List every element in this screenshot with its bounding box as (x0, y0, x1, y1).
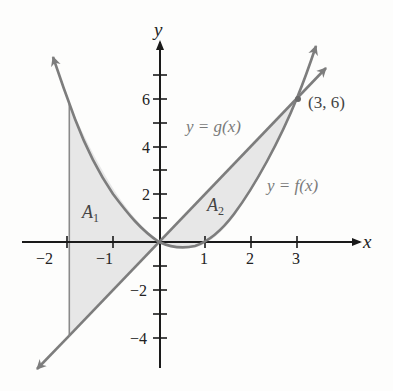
y-tick-label: −2 (130, 282, 147, 299)
y-tick-label: 4 (142, 139, 150, 156)
chart: x y −2 −1 1 2 3 6 4 2 −2 −4 y = g(x) y =… (0, 0, 393, 391)
x-axis-label: x (362, 231, 372, 252)
intersection-point (295, 96, 301, 102)
x-tick-label: −2 (36, 250, 53, 267)
x-tick-label: 1 (200, 250, 208, 267)
x-tick-label: 2 (246, 250, 254, 267)
point-label: (3, 6) (308, 93, 345, 112)
f-label: y = f(x) (265, 176, 318, 195)
y-tick-label: −4 (130, 330, 147, 347)
g-label: y = g(x) (184, 117, 241, 136)
g-line (37, 336, 69, 369)
x-tick-label: 3 (292, 250, 300, 267)
y-axis-label: y (152, 19, 163, 40)
y-tick-label: 2 (142, 186, 150, 203)
x-tick-label: −1 (96, 250, 113, 267)
y-tick-label: 6 (142, 91, 150, 108)
